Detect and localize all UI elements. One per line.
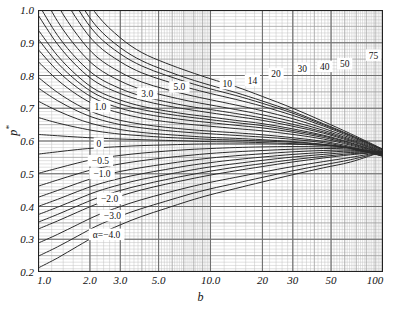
curve-label: 10 [222,79,232,89]
x-axis-title: b [0,290,401,305]
y-tick-label: 0.8 [20,70,34,82]
x-axis-tick-labels: 1.02.03.05.010.0203050100 [38,274,383,290]
x-tick-label: 3.0 [113,274,127,286]
curve-label: 20 [271,69,281,79]
y-axis-title: p* [4,111,21,151]
curve-label: 30 [297,64,307,74]
x-tick-label: 1.0 [37,274,51,286]
y-tick-label: 0.2 [20,266,34,278]
curve-label: 14 [248,76,258,86]
curve-label: −0.5 [92,156,109,166]
y-tick-label: 1.0 [20,4,34,16]
curve-label: 50 [340,59,350,69]
y-tick-label: 0.6 [20,135,34,147]
x-tick-label: 100 [367,274,384,286]
x-tick-label: 5.0 [152,274,166,286]
curve-label: 1.0 [94,102,106,112]
curve-label: 40 [320,62,330,72]
y-tick-label: 0.5 [20,168,34,180]
y-tick-label: 0.7 [20,102,34,114]
y-tick-label: 0.3 [20,233,34,245]
x-tick-label: 20 [257,274,268,286]
x-tick-label: 10.0 [201,274,220,286]
plot-area: 1.03.05.0101420304050750−0.5−1.0−2.0−3.0… [38,10,383,272]
x-tick-label: 2.0 [83,274,97,286]
y-axis-title-text: p [6,130,20,136]
y-axis-title-superscript: * [4,125,14,130]
y-tick-label: 0.4 [20,201,34,213]
curve-label: 75 [369,51,379,61]
curve-label: −1.0 [93,169,110,179]
plot-svg: 1.03.05.0101420304050750−0.5−1.0−2.0−3.0… [38,10,383,272]
curve-label: −2.0 [101,194,118,204]
curve-label: 3.0 [141,89,153,99]
curve-label: −3.0 [104,211,121,221]
chart-figure: 0.20.30.40.50.60.70.80.91.0 p* 1.03.05.0… [0,0,401,311]
curve-label: 0 [96,139,101,149]
x-tick-label: 50 [326,274,337,286]
curve-label: 5.0 [173,82,185,92]
y-tick-label: 0.9 [20,37,34,49]
x-tick-label: 30 [287,274,298,286]
curve-label: α=−4.0 [93,230,121,240]
